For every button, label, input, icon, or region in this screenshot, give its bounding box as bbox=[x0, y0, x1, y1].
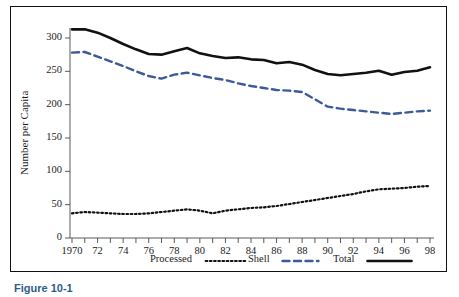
x-axis-ticks bbox=[72, 238, 430, 243]
series-line-shell bbox=[72, 52, 430, 114]
figure-container: Number per Capita 050100150200250300 197… bbox=[0, 0, 459, 297]
y-tick-label: 300 bbox=[24, 31, 62, 42]
y-tick-label: 50 bbox=[24, 198, 62, 209]
legend-label-shell: Shell bbox=[248, 253, 270, 264]
y-axis-ticks bbox=[65, 38, 70, 238]
data-series-group bbox=[72, 29, 430, 214]
y-tick-label: 200 bbox=[24, 98, 62, 109]
figure-caption: Figure 10-1 bbox=[14, 282, 214, 296]
figure-caption-text: Figure 10-1 bbox=[14, 282, 214, 294]
series-line-total bbox=[72, 29, 430, 75]
legend-label-total: Total bbox=[333, 253, 354, 264]
y-tick-label: 0 bbox=[24, 231, 62, 242]
y-tick-label: 100 bbox=[24, 164, 62, 175]
y-tick-label: 250 bbox=[24, 64, 62, 75]
series-line-processed bbox=[72, 186, 430, 214]
x-tick-label: 98 bbox=[410, 245, 450, 256]
legend-label-processed: Processed bbox=[150, 253, 192, 264]
y-tick-label: 150 bbox=[24, 131, 62, 142]
